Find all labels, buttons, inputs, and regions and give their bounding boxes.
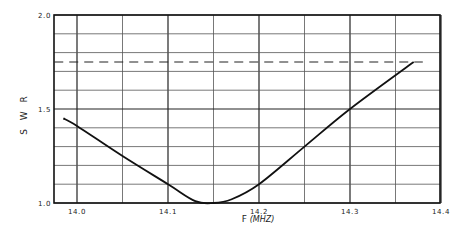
x-tick-label: 14.3 — [341, 208, 359, 216]
x-tick-label: 14.0 — [68, 208, 86, 216]
x-tick-label: 14.1 — [159, 208, 177, 216]
swr-curve — [63, 62, 413, 203]
y-axis-ticks: 1.01.52.0 — [38, 12, 51, 208]
x-axis-label-main: F — [242, 214, 247, 224]
x-axis-label-unit: (MHZ) — [250, 215, 275, 224]
grid — [54, 15, 441, 203]
x-axis-label: F (MHZ) — [242, 214, 275, 224]
y-tick-label: 1.5 — [38, 106, 51, 114]
y-tick-label: 1.0 — [38, 200, 51, 208]
y-tick-label: 2.0 — [38, 12, 51, 20]
x-tick-label: 14.4 — [432, 208, 450, 216]
y-axis-label: S W R — [19, 93, 29, 135]
swr-chart: 14.014.114.214.314.4 1.01.52.0 S W R F (… — [0, 0, 461, 232]
